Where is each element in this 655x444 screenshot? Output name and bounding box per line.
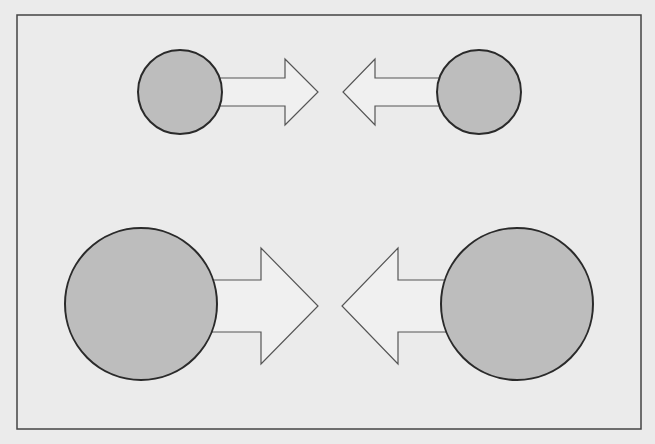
small-pair-left-circle bbox=[138, 50, 222, 134]
arrow-left-icon bbox=[343, 59, 440, 125]
small-pair bbox=[138, 50, 521, 134]
large-pair bbox=[65, 228, 593, 380]
large-pair-left-circle bbox=[65, 228, 217, 380]
large-pair-right-circle bbox=[441, 228, 593, 380]
arrow-right-icon bbox=[210, 248, 318, 364]
arrow-left-icon bbox=[342, 248, 448, 364]
arrow-right-icon bbox=[220, 59, 318, 125]
diagram-rows bbox=[65, 50, 593, 380]
small-pair-right-circle bbox=[437, 50, 521, 134]
diagram-canvas bbox=[0, 0, 655, 444]
